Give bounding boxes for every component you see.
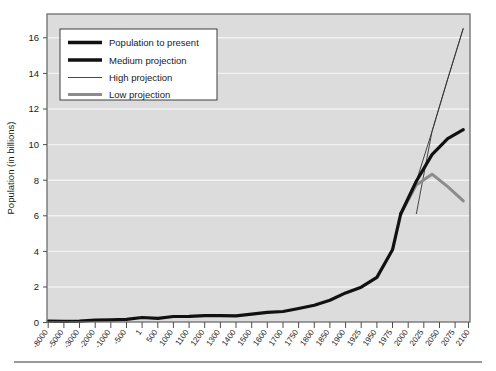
population-chart-figure: 0 2 4 6 8 10 12 14 16 Population (in bil… xyxy=(0,0,496,371)
y-tick-label-12: 12 xyxy=(28,103,39,114)
y-tick-label-14: 14 xyxy=(28,68,39,79)
y-tick-label-10: 10 xyxy=(28,139,39,150)
legend-label-medium-projection: Medium projection xyxy=(109,55,187,66)
y-tick-label-8: 8 xyxy=(34,175,39,186)
y-tick-label-6: 6 xyxy=(34,210,39,221)
legend-label-high-projection: High projection xyxy=(109,72,172,83)
y-tick-label-4: 4 xyxy=(34,246,39,257)
legend-label-population-to-present: Population to present xyxy=(109,37,199,48)
y-axis-title: Population (in billions) xyxy=(5,122,16,215)
chart-legend[interactable]: Population to present Medium projection … xyxy=(60,29,217,100)
y-tick-label-0: 0 xyxy=(34,317,39,328)
legend-label-low-projection: Low projection xyxy=(109,89,170,100)
y-tick-label-16: 16 xyxy=(28,32,39,43)
y-tick-label-2: 2 xyxy=(34,281,39,292)
